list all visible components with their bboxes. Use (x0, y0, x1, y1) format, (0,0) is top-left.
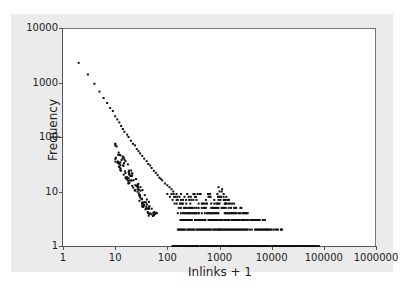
data-point (180, 199, 182, 201)
data-point (137, 186, 139, 188)
data-point (131, 185, 133, 187)
data-point (128, 180, 130, 182)
data-point (139, 152, 141, 154)
data-point (233, 203, 235, 205)
data-point (210, 196, 212, 198)
data-point (233, 212, 235, 214)
data-point (120, 125, 122, 127)
data-point (114, 161, 116, 163)
data-point (186, 193, 188, 195)
data-point (228, 219, 230, 221)
data-point (185, 207, 187, 209)
data-point (109, 107, 111, 109)
data-point (99, 91, 101, 93)
data-point (141, 204, 143, 206)
data-point (281, 229, 283, 231)
data-point (103, 97, 105, 99)
data-point (147, 163, 149, 165)
data-point (218, 199, 220, 201)
data-point (218, 212, 220, 214)
data-point (247, 212, 249, 214)
data-point (264, 219, 266, 221)
data-point (251, 229, 253, 231)
data-point (235, 212, 237, 214)
data-point (198, 245, 200, 247)
data-point (166, 193, 168, 195)
data-point (128, 136, 130, 138)
data-point (188, 199, 190, 201)
data-point (131, 180, 133, 182)
data-point (184, 229, 186, 231)
data-point (198, 212, 200, 214)
data-point (201, 207, 203, 209)
data-point (122, 165, 124, 167)
data-point (221, 191, 223, 193)
data-point (218, 186, 220, 188)
data-point (194, 207, 196, 209)
data-point (231, 203, 233, 205)
data-point (247, 229, 249, 231)
data-point (192, 199, 194, 201)
data-point (230, 207, 232, 209)
data-point (151, 167, 153, 169)
data-point (125, 160, 127, 162)
data-point (188, 207, 190, 209)
data-point (141, 198, 143, 200)
data-point (205, 199, 207, 201)
data-point (166, 184, 168, 186)
data-point (134, 190, 136, 192)
data-point (225, 196, 227, 198)
data-point (125, 172, 127, 174)
data-point (128, 173, 130, 175)
data-point (122, 128, 124, 130)
data-point (197, 193, 199, 195)
data-point (136, 148, 138, 150)
data-point (223, 193, 225, 195)
data-point (157, 174, 159, 176)
data-point (149, 165, 151, 167)
data-point (112, 110, 114, 112)
data-point (148, 213, 150, 215)
data-point (138, 150, 140, 152)
data-point (221, 219, 223, 221)
data-point (119, 166, 121, 168)
data-point (126, 134, 128, 136)
data-point (196, 207, 198, 209)
data-point (114, 158, 116, 160)
data-point (123, 157, 125, 159)
data-point (173, 193, 175, 195)
data-point (124, 170, 126, 172)
data-point (144, 201, 146, 203)
data-point (116, 118, 118, 120)
data-point (273, 229, 275, 231)
data-point (155, 172, 157, 174)
data-point (87, 74, 89, 76)
data-point (271, 229, 273, 231)
data-point (176, 203, 178, 205)
data-point (147, 211, 149, 213)
data-point (188, 196, 190, 198)
data-point (182, 203, 184, 205)
data-point (177, 212, 179, 214)
data-point (148, 201, 150, 203)
data-point (225, 207, 227, 209)
data-point (140, 186, 142, 188)
data-point (145, 206, 147, 208)
data-point (123, 131, 125, 133)
data-point (180, 212, 182, 214)
data-point (316, 245, 318, 247)
data-point (171, 188, 173, 190)
scatter-points (0, 0, 411, 295)
data-point (206, 203, 208, 205)
data-point (239, 212, 241, 214)
data-point (198, 207, 200, 209)
data-point (144, 194, 146, 196)
data-point (244, 219, 246, 221)
data-point (127, 163, 129, 165)
data-point (130, 170, 132, 172)
data-point (169, 196, 171, 198)
data-point (177, 199, 179, 201)
data-point (196, 199, 198, 201)
data-point (153, 214, 155, 216)
data-point (204, 212, 206, 214)
